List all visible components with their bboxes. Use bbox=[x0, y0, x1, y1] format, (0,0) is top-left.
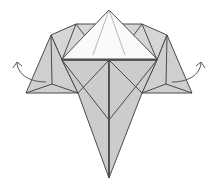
origami-diagram: Origami fold step bbox=[0, 0, 214, 187]
origami-model bbox=[0, 0, 214, 187]
